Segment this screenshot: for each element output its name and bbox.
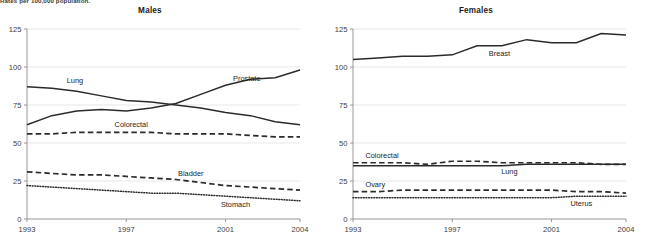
chart-males: 02550751001251993199720012004LungProstat…	[0, 0, 326, 239]
series-label-colorectal: Colorectal	[365, 151, 399, 160]
y-tick-label-100: 100	[335, 63, 348, 72]
series-line-colorectal	[27, 132, 300, 137]
chart-females: 02550751001251993199720012004BreastColor…	[326, 0, 652, 239]
figure-root: Rates per 100,000 population. Males 0255…	[0, 0, 652, 239]
y-tick-label-100: 100	[9, 63, 22, 72]
y-tick-label-75: 75	[13, 101, 21, 110]
y-tick-label-50: 50	[339, 139, 347, 148]
x-tick-label-1997: 1997	[118, 225, 135, 234]
y-tick-label-0: 0	[343, 215, 347, 224]
panel-males: Males 02550751001251993199720012004LungP…	[0, 0, 326, 239]
series-line-stomach	[27, 186, 300, 201]
y-tick-label-125: 125	[9, 25, 22, 34]
series-line-ovary	[353, 190, 626, 193]
series-label-uterus: Uterus	[570, 199, 592, 208]
x-tick-label-1997: 1997	[444, 225, 461, 234]
x-tick-label-2004: 2004	[292, 225, 309, 234]
x-tick-label-2001: 2001	[543, 225, 560, 234]
series-label-bladder: Bladder	[178, 169, 204, 178]
series-label-lung: Lung	[501, 167, 517, 176]
x-tick-label-1993: 1993	[345, 225, 362, 234]
series-label-breast: Breast	[489, 49, 510, 58]
series-label-ovary: Ovary	[365, 180, 385, 189]
y-tick-label-50: 50	[13, 139, 21, 148]
series-label-lung: Lung	[67, 76, 83, 85]
series-line-uterus	[353, 196, 626, 198]
series-label-prostate: Prostate	[233, 74, 261, 83]
series-label-colorectal: Colorectal	[115, 120, 149, 129]
y-tick-label-125: 125	[335, 25, 348, 34]
x-tick-label-1993: 1993	[19, 225, 36, 234]
y-tick-label-75: 75	[339, 101, 347, 110]
x-tick-label-2004: 2004	[618, 225, 635, 234]
x-tick-label-2001: 2001	[217, 225, 234, 234]
y-tick-label-25: 25	[13, 177, 21, 186]
y-tick-label-25: 25	[339, 177, 347, 186]
series-line-lung	[353, 164, 626, 166]
panel-females: Females 02550751001251993199720012004Bre…	[326, 0, 652, 239]
y-tick-label-0: 0	[17, 215, 21, 224]
series-label-stomach: Stomach	[221, 200, 250, 209]
